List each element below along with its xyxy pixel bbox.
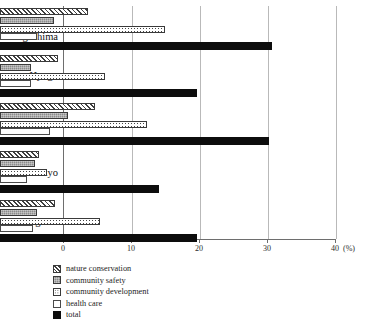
gridline-30 <box>268 6 269 239</box>
legend-label-health-care: health care <box>66 298 102 310</box>
bar-kagoshima-community-safety <box>0 17 54 24</box>
bar-hyogo-total <box>0 89 197 97</box>
bar-kagoshima-community-development <box>0 26 165 33</box>
gridline-40 <box>336 6 337 239</box>
tick-mark-40 <box>335 239 336 243</box>
x-tick-label-40: 40 <box>331 244 339 254</box>
bar-chart-figure: 0 10 20 30 40 (%) Kagoshima Hyogo Yamana… <box>0 0 365 328</box>
bar-yamanashi-community-development <box>0 121 147 128</box>
bar-all-regions-community-safety <box>0 209 37 216</box>
legend-swatch-total-icon <box>53 311 61 319</box>
bar-yamanashi-health-care <box>0 128 50 135</box>
x-tick-label-20: 20 <box>195 244 203 254</box>
legend-swatch-community-development-icon <box>53 288 61 296</box>
bar-yamanashi-community-safety <box>0 112 68 119</box>
bar-all-regions-total <box>0 234 197 242</box>
bar-tokyo-community-safety <box>0 160 35 167</box>
bar-kagoshima-nature-conservation <box>0 8 88 15</box>
bar-hyogo-nature-conservation <box>0 55 58 62</box>
bar-tokyo-nature-conservation <box>0 151 39 158</box>
legend-label-community-development: community development <box>66 286 149 298</box>
chart-legend: nature conservation community safety com… <box>53 263 149 321</box>
x-tick-label-30: 30 <box>263 244 271 254</box>
legend-item-health-care: health care <box>53 298 149 310</box>
legend-swatch-health-care-icon <box>53 300 61 308</box>
tick-mark-30 <box>267 239 268 243</box>
legend-label-total: total <box>66 309 81 321</box>
bar-yamanashi-total <box>0 137 269 145</box>
tick-mark-20 <box>199 239 200 243</box>
bar-kagoshima-health-care <box>0 33 37 40</box>
x-tick-label-0: 0 <box>61 244 65 254</box>
bar-tokyo-health-care <box>0 176 27 183</box>
bar-yamanashi-nature-conservation <box>0 103 95 110</box>
legend-item-community-development: community development <box>53 286 149 298</box>
bar-hyogo-community-safety <box>0 64 31 71</box>
legend-item-community-safety: community safety <box>53 275 149 287</box>
bar-kagoshima-total <box>0 42 272 50</box>
x-tick-label-10: 10 <box>127 244 135 254</box>
bar-all-regions-health-care <box>0 225 33 232</box>
gridline-20 <box>200 6 201 239</box>
legend-item-nature-conservation: nature conservation <box>53 263 149 275</box>
bar-hyogo-community-development <box>0 73 105 80</box>
x-axis-unit-label: (%) <box>343 244 355 254</box>
legend-label-nature-conservation: nature conservation <box>66 263 131 275</box>
legend-item-total: total <box>53 309 149 321</box>
bar-all-regions-nature-conservation <box>0 200 55 207</box>
legend-label-community-safety: community safety <box>66 275 126 287</box>
bar-hyogo-health-care <box>0 80 31 87</box>
bar-tokyo-total <box>0 185 159 193</box>
legend-swatch-community-safety-icon <box>53 276 61 284</box>
legend-swatch-nature-conservation-icon <box>53 265 61 273</box>
bar-all-regions-community-development <box>0 218 100 225</box>
bar-tokyo-community-development <box>0 169 47 176</box>
